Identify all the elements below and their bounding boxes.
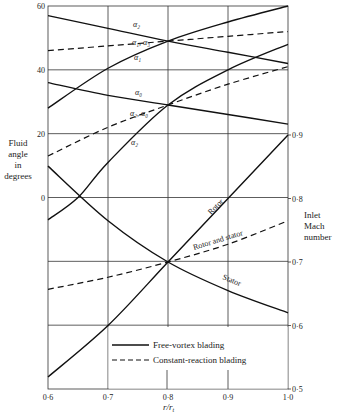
svg-text:in: in xyxy=(14,160,22,170)
legend-dashed-label: Constant-reaction blading xyxy=(153,355,247,365)
label-rotor: Rotor xyxy=(206,197,225,216)
y-left-tick-label: 20 xyxy=(37,130,45,139)
x-tick-label: 0·9 xyxy=(223,393,234,402)
y-left-tick-label: 40 xyxy=(37,66,45,75)
x-tick-label: 1·0 xyxy=(283,393,294,402)
label-alpha0: α₀ xyxy=(135,88,142,97)
y-right-tick-label: 0·7 xyxy=(292,258,303,267)
y-left-tick-label: 60 xyxy=(37,2,45,11)
legend: Free-vortex blading Constant-reaction bl… xyxy=(109,327,288,389)
label-alpha2-top: α₂ xyxy=(133,20,140,29)
label-alpha1-alpha3: α₁, α₃ xyxy=(132,38,150,47)
y-right-tick-label: 0·8 xyxy=(292,195,303,204)
svg-text:angle: angle xyxy=(8,149,28,159)
label-alpha2-low: α₂ xyxy=(131,138,138,147)
svg-text:Inlet: Inlet xyxy=(304,210,321,220)
legend-solid-label: Free-vortex blading xyxy=(153,340,225,350)
x-tick-label: 0·8 xyxy=(163,393,174,402)
right-axis-label: Inlet Mach number xyxy=(304,210,332,242)
x-tick-label: 0·6 xyxy=(43,393,54,402)
y-right-tick-label: 0·9 xyxy=(292,131,303,140)
label-alpha1: α₁ xyxy=(134,53,141,62)
left-axis-label: Fluid angle in degrees xyxy=(4,138,32,181)
label-alpha2-alpha0: α₂, α₀ xyxy=(130,109,148,118)
y-right-tick-label: 0·5 xyxy=(292,385,303,394)
label-stator: Stator xyxy=(221,273,242,289)
svg-text:Fluid: Fluid xyxy=(8,138,28,148)
x-axis-label: r/rt xyxy=(163,402,175,413)
svg-text:Mach: Mach xyxy=(304,221,325,231)
svg-text:degrees: degrees xyxy=(4,171,32,181)
y-left-tick-label: 0 xyxy=(41,194,45,203)
y-right-tick-label: 0·6 xyxy=(292,322,303,331)
label-rotor-and-stator: Rotor and stator xyxy=(192,228,244,252)
svg-text:number: number xyxy=(304,232,332,242)
fluid-angle-mach-chart: 0·60·70·80·91·060402000·90·80·70·60·5 Fr… xyxy=(0,0,337,418)
x-tick-label: 0·7 xyxy=(103,393,114,402)
